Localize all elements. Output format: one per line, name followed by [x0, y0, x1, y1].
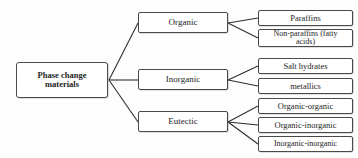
connector-eutectic-to-inorganic-inorganic — [228, 122, 258, 144]
node-organic: Organic — [138, 12, 228, 33]
node-non-paraffins: Non-paraffins (fatty acids) — [258, 29, 353, 47]
node-label-wrapper: Non-paraffins (fatty acids) — [269, 30, 341, 47]
node-label-wrapper: Phase change materials — [34, 71, 91, 89]
node-label: Salt hydrates — [281, 62, 329, 71]
phase-change-materials-diagram: Phase change materials Organic Inorganic… — [0, 0, 358, 158]
connector-inorganic-to-salt-hydrates — [228, 66, 258, 80]
node-label: Organic-inorganic — [273, 121, 339, 130]
node-label: metallics — [288, 82, 323, 91]
node-label: Organic-organic — [276, 102, 335, 111]
node-label: Paraffins — [288, 14, 323, 23]
node-organic-inorganic: Organic-inorganic — [258, 117, 353, 133]
connector-organic-to-non-paraffins — [228, 23, 258, 38]
connector-eutectic-to-organic-inorganic — [228, 122, 258, 125]
node-salt-hydrates: Salt hydrates — [258, 58, 353, 74]
connector-root-to-eutectic — [109, 80, 138, 122]
node-label: Inorganic-inorganic — [272, 140, 339, 148]
connector-root-to-organic — [109, 23, 138, 80]
node-eutectic: Eutectic — [138, 111, 228, 132]
connector-inorganic-to-metallics — [228, 80, 258, 86]
node-organic-organic: Organic-organic — [258, 98, 353, 114]
connector-organic-to-paraffins — [228, 18, 258, 23]
node-inorganic-inorganic: Inorganic-inorganic — [258, 136, 353, 152]
node-label: Eutectic — [166, 117, 199, 126]
connector-eutectic-to-organic-organic — [228, 106, 258, 122]
node-paraffins: Paraffins — [258, 10, 353, 26]
node-label-line-2: materials — [36, 80, 89, 89]
node-phase-change-materials: Phase change materials — [16, 62, 108, 98]
node-metallics: metallics — [258, 78, 353, 94]
node-label-line-2: acids) — [271, 38, 339, 46]
node-label: Organic — [167, 18, 200, 27]
node-inorganic: Inorganic — [138, 69, 228, 90]
node-label: Inorganic — [164, 75, 202, 84]
